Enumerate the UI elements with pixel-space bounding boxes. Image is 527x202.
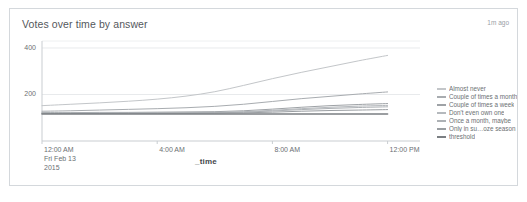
legend-item-label: Don't even own one [449, 109, 504, 116]
x-axis-tick-label-0: 12:00 AMFri Feb 132015 [44, 145, 76, 172]
x-tick-time: 4:00 AM [159, 145, 185, 154]
legend-item[interactable]: Couple of times a month [437, 93, 527, 101]
x-axis-title: _time [195, 157, 217, 166]
legend-item-label: threshold [449, 133, 475, 140]
panel-title: Votes over time by answer [22, 18, 148, 30]
x-tick-time: 8:00 AM [274, 145, 300, 154]
legend-swatch-icon [437, 96, 446, 98]
legend-swatch-icon [437, 136, 446, 138]
x-axis-tick-label-1: 4:00 AM [159, 145, 185, 154]
x-axis-tick-label-3: 12:00 PM [390, 145, 420, 154]
legend-swatch-icon [437, 112, 446, 114]
chart-area[interactable]: 200400 12:00 AMFri Feb 1320154:00 AM8:00… [10, 35, 517, 185]
x-tick-year: 2015 [44, 163, 76, 172]
legend-item[interactable]: Almost never [437, 85, 527, 93]
legend-item[interactable]: Couple of times a week [437, 101, 527, 109]
panel-refresh-timestamp: 1m ago [487, 19, 509, 26]
legend-swatch-icon [437, 128, 446, 130]
legend-item[interactable]: threshold [437, 133, 527, 141]
y-axis-tick-label-0: 200 [10, 90, 36, 97]
legend-item[interactable]: Only in su…oze season [437, 125, 527, 133]
x-tick-time: 12:00 AM [44, 145, 76, 154]
legend-swatch-icon [437, 104, 446, 106]
legend-swatch-icon [437, 88, 446, 90]
legend-item-label: Once a month, maybe [449, 117, 511, 124]
x-tick-date: Fri Feb 13 [44, 154, 76, 163]
x-tick-time: 12:00 PM [390, 145, 420, 154]
series-line-0[interactable] [42, 55, 388, 105]
dashboard-panel: Votes over time by answer 1m ago 200400 … [9, 8, 518, 186]
legend-item-label: Couple of times a week [449, 101, 514, 108]
legend-item-label: Almost never [449, 85, 486, 92]
legend-item-label: Only in su…oze season [449, 125, 516, 132]
legend-item[interactable]: Once a month, maybe [437, 117, 527, 125]
chart-legend[interactable]: Almost neverCouple of times a monthCoupl… [437, 85, 527, 141]
x-axis-tick-label-2: 8:00 AM [274, 145, 300, 154]
y-axis-tick-label-1: 400 [10, 44, 36, 51]
legend-swatch-icon [437, 120, 446, 122]
legend-item[interactable]: Don't even own one [437, 109, 527, 117]
legend-item-label: Couple of times a month [449, 93, 517, 100]
